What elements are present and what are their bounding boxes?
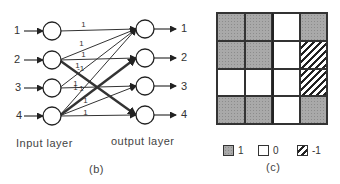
matrix-cell — [272, 69, 300, 97]
input-node — [43, 79, 61, 97]
input-node — [43, 107, 61, 125]
matrix-cell — [272, 41, 300, 69]
input-label-4: 4 — [16, 109, 22, 121]
matrix-cell — [300, 96, 328, 124]
input-label-2: 2 — [14, 53, 20, 65]
panel-c-caption: (c) — [266, 161, 280, 173]
matrix-cell — [245, 96, 273, 124]
matrix-cell — [217, 69, 245, 97]
edge-weight-label: 1 — [81, 20, 86, 29]
output-node — [136, 106, 154, 124]
legend-label-1: 1 — [238, 145, 244, 156]
matrix-cell — [217, 41, 245, 69]
legend-item-1: 1 — [223, 145, 244, 156]
legend-item-0: 0 — [258, 145, 279, 156]
input-label-1: 1 — [14, 24, 20, 36]
hatched-swatch-icon — [297, 145, 308, 156]
output-node — [136, 49, 154, 67]
panel-b-caption: (b) — [89, 163, 104, 175]
white-swatch-icon — [258, 145, 269, 156]
output-layer-label: output layer — [111, 135, 174, 147]
edge-weight-label: 1 — [83, 96, 88, 105]
output-node — [136, 77, 154, 95]
matrix-cell — [300, 41, 328, 69]
connection-edge — [59, 29, 136, 60]
connection-edge — [59, 29, 136, 31]
output-label-1: 1 — [181, 22, 187, 34]
edge-weight-label: 1 — [83, 108, 88, 117]
matrix-cell — [272, 96, 300, 124]
matrix-cell — [217, 13, 245, 41]
output-label-3: 3 — [181, 80, 187, 92]
output-label-2: 2 — [181, 51, 187, 63]
matrix-cell — [245, 69, 273, 97]
output-label-4: 4 — [181, 108, 187, 120]
matrix-cell — [272, 13, 300, 41]
input-node — [43, 22, 61, 40]
legend-label-neg1: -1 — [312, 145, 321, 156]
legend-item-neg1: -1 — [297, 145, 321, 156]
input-label-3: 3 — [15, 81, 21, 93]
output-node — [136, 20, 154, 38]
shaded-swatch-icon — [223, 145, 234, 156]
connection-edge — [59, 115, 136, 116]
edge-weight-label: 1 — [79, 39, 84, 48]
legend-label-0: 0 — [273, 145, 279, 156]
matrix-cell — [300, 69, 328, 97]
connection-edge — [59, 86, 136, 116]
edge-weight-label: 1 — [75, 61, 80, 70]
connection-edge — [59, 29, 136, 116]
input-node — [43, 51, 61, 69]
matrix-cell — [217, 96, 245, 124]
edge-weight-label: 1 — [81, 50, 86, 59]
input-layer-label: Input layer — [16, 137, 73, 149]
matrix-cell — [300, 13, 328, 41]
matrix-cell — [245, 41, 273, 69]
weight-matrix — [216, 12, 328, 125]
edge-weight-label: 1 — [79, 84, 84, 93]
network-diagram: 111-1111111 — [0, 0, 210, 184]
edge-weight-label: 1 — [73, 83, 78, 92]
matrix-cell — [245, 13, 273, 41]
